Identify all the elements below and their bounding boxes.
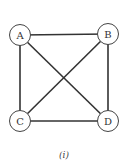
node-a: A xyxy=(10,25,31,46)
node-a-label: A xyxy=(15,30,24,41)
edges xyxy=(20,34,108,121)
node-c: C xyxy=(10,111,31,132)
graph-diagram: A B C D (i) xyxy=(0,0,128,167)
figure-caption: (i) xyxy=(59,150,69,160)
node-c-label: C xyxy=(16,116,24,127)
edge-a-b xyxy=(20,34,108,35)
node-b: B xyxy=(98,24,119,45)
node-b-label: B xyxy=(104,29,111,40)
node-d-label: D xyxy=(104,116,112,127)
node-d: D xyxy=(98,111,119,132)
